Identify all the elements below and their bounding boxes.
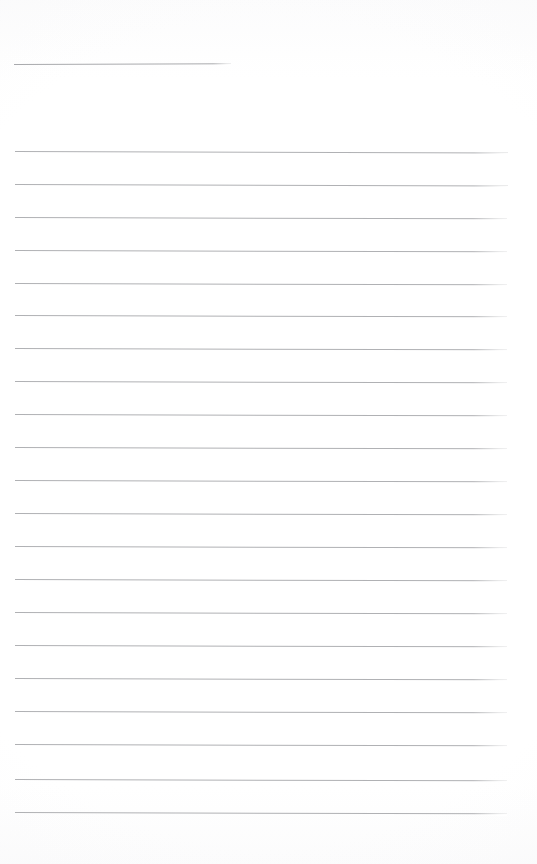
writing-area[interactable]	[15, 140, 508, 830]
notepaper-page	[0, 0, 537, 864]
title-line	[14, 63, 231, 65]
